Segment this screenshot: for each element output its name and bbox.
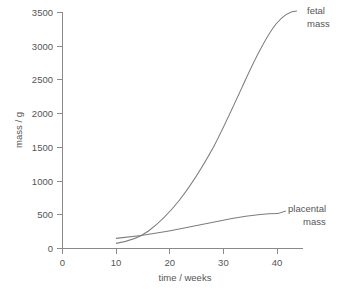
- y-axis-title: mass / g: [13, 112, 24, 148]
- y-tick-label-3500: 3500: [32, 7, 53, 18]
- chart-canvas: 3500 3000 2500 2000 1500 1000 500 0 0 10…: [0, 0, 349, 292]
- y-tick-label-0: 0: [48, 243, 53, 254]
- placental-mass-label-line2: mass: [303, 216, 326, 227]
- y-tick-label-1500: 1500: [32, 142, 53, 153]
- placental-mass-label-line1: placental: [288, 203, 326, 214]
- x-axis-title: time / weeks: [159, 272, 212, 283]
- growth-chart: 3500 3000 2500 2000 1500 1000 500 0 0 10…: [0, 0, 349, 292]
- fetal-mass-label-line1: fetal: [307, 5, 325, 16]
- x-tick-label-20: 20: [164, 257, 175, 268]
- placental-mass-curve: [116, 214, 278, 239]
- x-tick-label-0: 0: [60, 257, 65, 268]
- fetal-mass-label-line2: mass: [307, 18, 330, 29]
- placental-label-leader: [278, 211, 286, 214]
- y-tick-label-2500: 2500: [32, 74, 53, 85]
- y-tick-label-2000: 2000: [32, 108, 53, 119]
- x-tick-label-40: 40: [272, 257, 283, 268]
- x-tick-label-30: 30: [218, 257, 229, 268]
- y-tick-label-3000: 3000: [32, 41, 53, 52]
- y-tick-label-1000: 1000: [32, 176, 53, 187]
- fetal-mass-curve: [116, 11, 297, 243]
- x-tick-label-10: 10: [111, 257, 122, 268]
- y-tick-label-500: 500: [37, 209, 53, 220]
